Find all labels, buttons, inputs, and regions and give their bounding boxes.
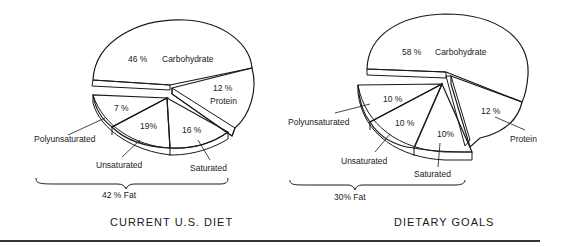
- sat-pct: 10%: [437, 129, 454, 139]
- chart-title-current: CURRENT U.S. DIET: [110, 216, 233, 228]
- fat-brace: [36, 178, 228, 189]
- protein-pct: 12 %: [213, 83, 233, 93]
- fat-total: 30% Fat: [334, 192, 366, 202]
- poly-label: Polyunsaturated: [288, 117, 350, 127]
- protein-label: Protein: [210, 96, 237, 106]
- unsat-pct: 10 %: [395, 118, 415, 128]
- carb-label: Carbohydrate: [162, 54, 214, 64]
- pie-current-us-diet: 46 % Carbohydrate 12 % Protein 7 % 19% 1…: [34, 20, 254, 228]
- protein-pct: 12 %: [481, 106, 501, 116]
- unsat-label: Unsaturated: [96, 160, 143, 170]
- unsat-pct: 19%: [140, 121, 157, 131]
- fat-total: 42 % Fat: [102, 190, 137, 200]
- chart-title-goals: DIETARY GOALS: [394, 216, 494, 228]
- pie-dietary-goals: 58 % Carbohydrate 12 % 10 % 10 % 10% Pol…: [288, 14, 537, 228]
- slice-carbohydrate: [367, 14, 528, 102]
- poly-pct: 7 %: [114, 103, 129, 113]
- poly-label: Polyunsaturated: [34, 134, 96, 144]
- diet-comparison-figure: 46 % Carbohydrate 12 % Protein 7 % 19% 1…: [0, 0, 568, 247]
- unsat-label: Unsaturated: [341, 156, 388, 166]
- carb-pct: 58 %: [402, 47, 422, 57]
- carb-pct: 46 %: [128, 54, 148, 64]
- slice-unsaturated: [370, 84, 442, 148]
- sat-label: Saturated: [414, 169, 451, 179]
- sat-pct: 16 %: [182, 125, 202, 135]
- sat-label: Saturated: [190, 163, 227, 173]
- carb-label: Carbohydrate: [435, 47, 487, 57]
- poly-pct: 10 %: [383, 94, 403, 104]
- protein-label: Protein: [510, 134, 537, 144]
- fat-brace: [290, 180, 465, 190]
